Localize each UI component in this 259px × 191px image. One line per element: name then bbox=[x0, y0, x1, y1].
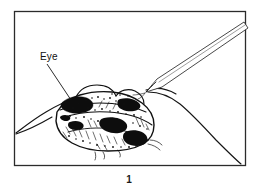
eye-label: Eye bbox=[40, 51, 58, 62]
figure-container: Eye 1 bbox=[0, 0, 259, 191]
figure-caption: 1 bbox=[126, 174, 132, 185]
illustration-canvas: Eye 1 bbox=[0, 0, 259, 191]
